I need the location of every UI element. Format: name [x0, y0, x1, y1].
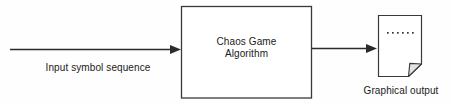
document-fold-corner — [409, 63, 422, 76]
process-label-line2: Algorithm — [181, 48, 312, 60]
input-arrow-head — [170, 45, 181, 54]
process-label-line1: Chaos Game — [217, 36, 277, 47]
block-diagram: Input symbol sequence Chaos GameAlgorith… — [0, 0, 450, 104]
output-label: Graphical output — [352, 85, 450, 97]
output-arrow-head — [366, 44, 377, 53]
output-arrow — [312, 44, 377, 53]
document-page-icon — [379, 16, 422, 77]
process-label: Chaos GameAlgorithm — [181, 36, 312, 60]
input-label: Input symbol sequence — [0, 62, 196, 74]
input-arrow — [10, 45, 181, 54]
